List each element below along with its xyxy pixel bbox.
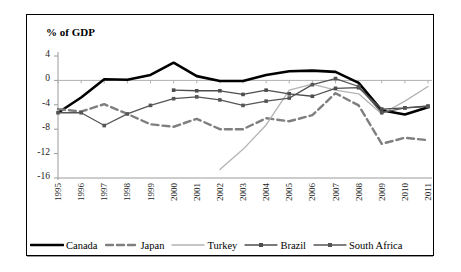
legend-item-south-africa[interactable]: South Africa: [313, 239, 402, 251]
legend-swatch: [30, 239, 64, 251]
x-axis-tick-label: 2002: [215, 183, 225, 201]
x-axis-tick-label: 1996: [76, 183, 86, 201]
x-axis-tick-label: 2005: [284, 183, 294, 201]
x-axis-tick-label: 2004: [261, 183, 271, 201]
x-axis-tick-label: 2001: [192, 183, 202, 201]
y-axis-tick-label: 4: [24, 49, 50, 59]
legend-swatch: [171, 239, 205, 251]
legend-label: Japan: [141, 240, 165, 251]
y-axis-tick-label: 0: [24, 73, 50, 83]
legend-swatch: [105, 239, 139, 251]
legend-label: Turkey: [207, 240, 237, 251]
legend-item-canada[interactable]: Canada: [30, 239, 98, 251]
legend-label: Canada: [66, 240, 98, 251]
chart-frame: [26, 14, 434, 256]
y-axis-tick-label: -12: [24, 147, 50, 157]
chart-legend: CanadaJapanTurkeyBrazilSouth Africa: [30, 236, 434, 254]
x-axis-tick-label: 1995: [53, 183, 63, 201]
y-axis-tick-label: -4: [24, 98, 50, 108]
x-axis-tick-label: 2000: [169, 183, 179, 201]
legend-item-brazil[interactable]: Brazil: [244, 239, 306, 251]
x-axis-tick-label: 2010: [400, 183, 410, 201]
x-axis-tick-label: 1999: [146, 183, 156, 201]
x-axis-tick-label: 2008: [354, 183, 364, 201]
legend-divider: [27, 256, 433, 257]
x-axis-tick-label: 1998: [122, 183, 132, 201]
x-axis-tick-label: 1997: [99, 183, 109, 201]
y-axis-title: % of GDP: [46, 26, 95, 38]
x-axis-tick-label: 2006: [307, 183, 317, 201]
legend-item-japan[interactable]: Japan: [105, 239, 165, 251]
legend-label: South Africa: [349, 240, 402, 251]
legend-swatch: [313, 239, 347, 251]
y-axis-tick-label: -8: [24, 122, 50, 132]
legend-item-turkey[interactable]: Turkey: [171, 239, 237, 251]
x-axis-tick-label: 2003: [238, 183, 248, 201]
x-axis-tick-label: 2009: [377, 183, 387, 201]
chart-container: % of GDP 40-4-8-12-16 199519961997199819…: [0, 0, 461, 272]
legend-swatch: [244, 239, 278, 251]
x-axis-tick-label: 2007: [331, 183, 341, 201]
legend-label: Brazil: [280, 240, 306, 251]
x-axis-tick-label: 2011: [423, 183, 433, 201]
y-axis-tick-label: -16: [24, 171, 50, 181]
